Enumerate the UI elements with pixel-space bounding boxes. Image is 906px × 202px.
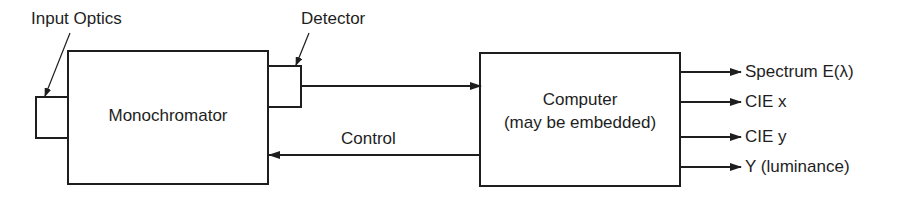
input-optics-label: Input Optics xyxy=(31,9,122,29)
input-optics-leader-arrow xyxy=(45,33,70,96)
detector-label: Detector xyxy=(301,9,365,29)
detector-box xyxy=(268,66,301,107)
computer-sublabel: (may be embedded) xyxy=(480,111,680,134)
output-label-luminance: Y (luminance) xyxy=(745,157,850,177)
control-label: Control xyxy=(341,129,396,149)
spectroradiometer-block-diagram: Input Optics Detector Monochromator Comp… xyxy=(0,0,906,202)
output-label-cie-y: CIE y xyxy=(745,127,787,147)
monochromator-label: Monochromator xyxy=(68,104,268,127)
input-optics-box xyxy=(36,97,68,138)
output-label-cie-x: CIE x xyxy=(745,92,787,112)
output-label-spectrum: Spectrum E(λ) xyxy=(745,62,854,82)
computer-label: Computer xyxy=(480,88,680,111)
detector-leader-arrow xyxy=(296,33,309,65)
